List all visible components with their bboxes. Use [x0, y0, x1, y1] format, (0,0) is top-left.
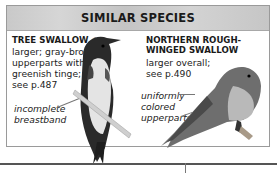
similar-species-panel: SIMILAR SPECIES TREE SWALLOW ◔ larger; g… — [6, 5, 270, 147]
page-divider — [0, 163, 277, 165]
panel-header: SIMILAR SPECIES — [7, 6, 269, 31]
rough-winged-swallow-illustration — [157, 62, 267, 150]
column-divider — [185, 163, 186, 173]
tree-swallow-illustration — [69, 30, 139, 166]
species-name-line: WINGED SWALLOW — [146, 45, 241, 55]
callout-line: incomplete — [14, 103, 66, 114]
callout-line: breastband — [14, 114, 66, 125]
species-name-line: NORTHERN ROUGH- — [146, 35, 241, 45]
species-name-rough-winged-swallow: NORTHERN ROUGH- WINGED SWALLOW — [146, 35, 241, 55]
panel-title: SIMILAR SPECIES — [81, 11, 195, 25]
